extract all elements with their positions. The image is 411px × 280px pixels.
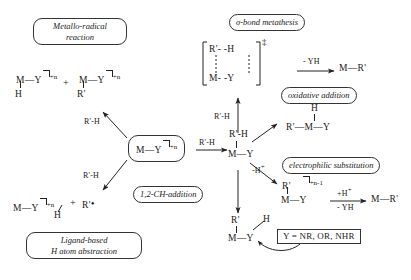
int-bond: — xyxy=(237,149,247,159)
oa-bond-2: — xyxy=(313,122,323,132)
core-ligand: Y xyxy=(155,145,162,155)
reagent-rh-top-left: R'-H xyxy=(84,118,100,126)
lb-below-group: H xyxy=(54,211,61,221)
label-ligand-based-line1: Ligand-based xyxy=(34,235,134,246)
sigma-prod-metal: M xyxy=(339,63,348,73)
product-ligand-abstraction: M—Y+n xyxy=(13,198,54,214)
mr-b-below-group: R' xyxy=(77,90,86,100)
product-oxidative-addition: R'—M—Y xyxy=(286,123,330,133)
reagent-plus-h-plus: +H+ xyxy=(337,187,352,198)
arrow-to-oxidative-addition xyxy=(252,124,277,142)
es-bond: — xyxy=(290,195,300,205)
reagent-rh-bottom-left: R'-H xyxy=(83,172,99,180)
minus-h-label: -H xyxy=(252,166,261,175)
metallo-radical-plus-sign: + xyxy=(63,78,69,88)
label-electrophilic-substitution: electrophilic substitution xyxy=(282,157,380,174)
ts-top-dash: - - xyxy=(218,44,228,54)
intermediate-electrophilic: M—Y xyxy=(281,196,307,206)
ch-ligand: Y xyxy=(247,233,254,243)
mr-a-charge-bracket xyxy=(43,70,50,77)
ts-bottom-row: M- -Y xyxy=(209,74,235,84)
ts-double-dagger-icon: ‡ xyxy=(262,38,267,47)
lb-radical-label: R' xyxy=(82,200,91,210)
sigma-prod-bond: — xyxy=(348,63,358,73)
radical-dot-icon: • xyxy=(91,197,95,209)
ts-bottom-left: M xyxy=(209,73,218,83)
lb-bond: — xyxy=(22,203,32,213)
label-oxidative-addition: oxidative addition xyxy=(281,87,357,104)
lb-ligand: Y xyxy=(32,203,39,213)
arrow-to-ligand-abstraction xyxy=(103,160,127,190)
core-charge-bracket xyxy=(163,140,170,147)
es-prod-metal: M xyxy=(371,194,380,204)
oa-metal: M xyxy=(304,122,313,132)
oa-left-group: R' xyxy=(286,122,295,132)
ch-metal: M xyxy=(228,233,237,243)
reagent-minus-h-plus: -H+ xyxy=(252,164,265,175)
int-ligand: Y xyxy=(247,149,254,159)
int-metal: M xyxy=(228,149,237,159)
core-reactant-box: M—Y+n xyxy=(128,135,185,162)
label-ch-addition: 1,2-CH-addition xyxy=(133,186,203,203)
intermediate-top-group: R'-H xyxy=(229,130,248,140)
oa-bond-1: — xyxy=(295,122,305,132)
label-ligand-based-abstraction: Ligand-based H atom abstraction xyxy=(26,232,142,259)
mr-a-ligand: Y xyxy=(35,75,42,85)
reagent-rh-sigma: R'-H xyxy=(214,113,230,121)
ts-top-left: R' xyxy=(209,44,218,54)
mr-b-charge: +n xyxy=(113,73,120,81)
label-metallo-radical-reaction: Metallo-radical reaction xyxy=(33,18,127,45)
core-metal: M xyxy=(136,145,145,155)
intermediate-metal-ligand: M—Y xyxy=(228,150,254,160)
plus-h-label: +H xyxy=(337,189,348,198)
es-metal: M xyxy=(281,195,290,205)
lb-radical-group: R'• xyxy=(82,198,95,211)
ts-top-right: H xyxy=(227,44,234,54)
mr-b-ligand: Y xyxy=(98,75,105,85)
ts-bracket-right xyxy=(256,42,260,85)
sigma-prod-group: R' xyxy=(358,63,367,73)
reagent-rh-center: R'-H xyxy=(199,139,215,147)
lb-charge: +n xyxy=(47,201,54,209)
lb-charge-bracket xyxy=(40,198,47,205)
label-metallo-radical-line1: Metallo-radical xyxy=(41,21,119,32)
es-prod-bond: — xyxy=(380,194,390,204)
product-ch-addition: M—Y xyxy=(228,234,254,244)
ts-bottom-dash: - - xyxy=(218,73,228,83)
ts-top-row: R'- -H xyxy=(209,45,234,55)
es-charge-bracket xyxy=(303,176,310,183)
product-sigma-metathesis: M—R' xyxy=(339,64,366,74)
ts-bracket-left xyxy=(203,42,207,85)
y-definition-box: Y = NR, OR, NHR xyxy=(277,229,361,244)
core-bond: — xyxy=(145,145,155,155)
mr-a-charge: +n xyxy=(50,73,57,81)
mr-b-charge-bracket xyxy=(106,70,113,77)
reagent-minus-yh-sigma: - YH xyxy=(303,58,320,66)
mr-a-bond: — xyxy=(25,75,35,85)
label-ligand-based-line2: H atom abstraction xyxy=(34,246,134,257)
reagent-minus-yh-electrophilic: - YH xyxy=(337,204,354,212)
ch-hydrogen: H xyxy=(263,215,270,225)
mr-a-below-group: H xyxy=(15,90,22,100)
label-metallo-radical-line2: reaction xyxy=(41,32,119,43)
plus-h-charge: + xyxy=(348,186,352,194)
mr-b-bond: — xyxy=(88,75,98,85)
reaction-scheme-canvas: Metallo-radical reaction M—Y+n H + M—Y+n… xyxy=(0,0,411,280)
minus-h-charge: + xyxy=(261,163,265,171)
core-charge: +n xyxy=(170,143,177,151)
lb-metal: M xyxy=(13,203,22,213)
ch-bond: — xyxy=(237,233,247,243)
es-prod-group: R' xyxy=(390,194,399,204)
product-electrophilic-substitution: M—R' xyxy=(371,195,398,205)
arrow-to-metallo-radical xyxy=(103,112,127,138)
oa-ligand: Y xyxy=(323,122,330,132)
es-charge: +n-1 xyxy=(310,179,323,187)
es-ligand: Y xyxy=(300,195,307,205)
label-sigma-bond-metathesis: σ-bond metathesis xyxy=(229,14,305,31)
lb-plus-sign: + xyxy=(70,198,76,208)
ts-bottom-right: Y xyxy=(227,73,234,83)
